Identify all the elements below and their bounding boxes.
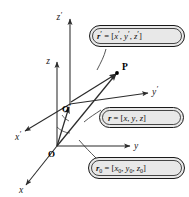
callout-r: r = [x, y, z] xyxy=(100,108,184,128)
vector-diagram-figure: z′ z y′ y x′ x O′ O P xyxy=(0,0,189,197)
point-p-label: P xyxy=(122,62,128,72)
callout-r-prime: r′ = [x′, y′, z′] xyxy=(90,26,185,47)
z-axis-label: z xyxy=(45,56,50,66)
origin-prime-label: O′ xyxy=(62,103,71,115)
x-axis-label: x xyxy=(18,185,24,195)
callout-r-zero: r0 = [x0, y0, z0] xyxy=(89,158,185,179)
x-prime-axis-label: x′ xyxy=(14,130,21,142)
y-axis-label: y xyxy=(133,141,139,151)
y-prime-axis-label: y′ xyxy=(151,85,158,97)
callout-r-text: r = [x, y, z] xyxy=(108,113,146,123)
vector-r-prime-arrow xyxy=(71,74,116,102)
leader-line-r0 xyxy=(79,140,96,158)
callout-r-prime-text: r′ = [x′, y′, z′] xyxy=(97,30,142,42)
origin-label: O xyxy=(48,149,55,159)
leader-line-r-prime xyxy=(97,49,106,70)
point-p-marker xyxy=(115,71,119,75)
z-prime-axis-label: z′ xyxy=(56,11,63,22)
leader-line-r xyxy=(84,110,101,122)
callout-r-zero-text: r0 = [x0, y0, z0] xyxy=(96,163,146,174)
